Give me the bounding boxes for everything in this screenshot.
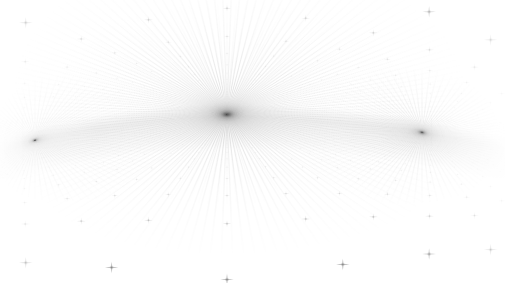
perspective-dot-grid-canvas: [0, 0, 505, 283]
artwork-stage: [0, 0, 505, 283]
